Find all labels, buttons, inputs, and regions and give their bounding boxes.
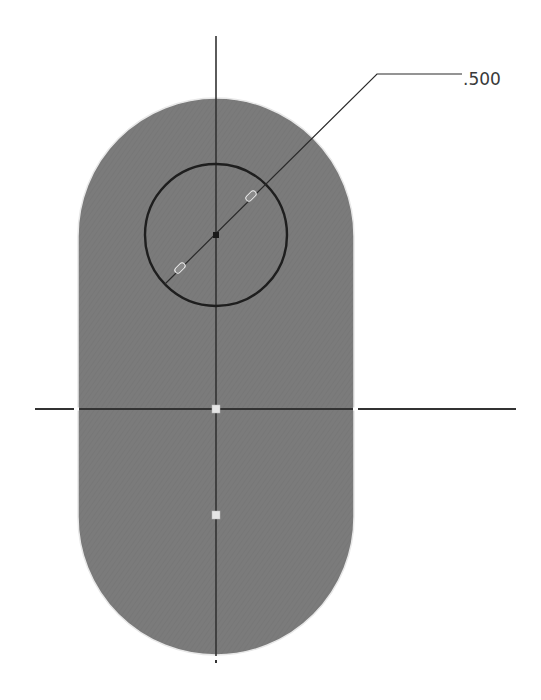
centerline-end-dot	[215, 660, 217, 663]
hole-center-point[interactable]	[213, 232, 219, 238]
origin-point[interactable]	[212, 405, 220, 413]
diameter-dimension-value[interactable]: .500	[463, 69, 501, 89]
lower-arc-center-point[interactable]	[212, 511, 220, 519]
sketch-canvas[interactable]: .500	[0, 0, 541, 700]
